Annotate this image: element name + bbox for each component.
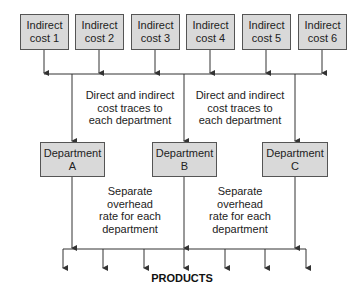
department-a-box: Department A: [40, 142, 105, 177]
indirect-cost-2-box: Indirect cost 2: [75, 14, 124, 50]
indirect-cost-3-box: Indirect cost 3: [131, 14, 180, 50]
note-line: department: [88, 223, 172, 236]
box-label-line1: Indirect: [192, 19, 228, 32]
box-label-line2: cost 6: [308, 32, 337, 45]
box-label-line1: Indirect: [26, 19, 62, 32]
note-line: Separate: [198, 185, 282, 198]
indirect-cost-4-box: Indirect cost 4: [186, 14, 235, 50]
note-line: cost traces to: [188, 102, 292, 115]
note-line: overhead: [198, 198, 282, 211]
note-line: rate for each: [198, 210, 282, 223]
box-label-line1: Indirect: [248, 19, 284, 32]
department-c-box: Department C: [262, 142, 328, 177]
note-line: cost traces to: [78, 102, 182, 115]
note-line: department: [198, 223, 282, 236]
rate-note-left: Separate overhead rate for each departme…: [88, 185, 172, 235]
box-label-line2: cost 2: [85, 32, 114, 45]
indirect-cost-6-box: Indirect cost 6: [298, 14, 347, 50]
note-line: each department: [188, 114, 292, 127]
box-label-line1: Indirect: [81, 19, 117, 32]
products-label: PRODUCTS: [0, 272, 364, 284]
dept-label-line2: A: [69, 160, 76, 173]
dept-label-line2: C: [291, 160, 299, 173]
box-label-line1: Indirect: [137, 19, 173, 32]
box-label-line2: cost 1: [30, 32, 59, 45]
box-label-line2: cost 3: [141, 32, 170, 45]
note-line: rate for each: [88, 210, 172, 223]
box-label-line1: Indirect: [304, 19, 340, 32]
box-label-line2: cost 4: [196, 32, 225, 45]
indirect-cost-1-box: Indirect cost 1: [20, 14, 69, 50]
department-b-box: Department B: [152, 142, 217, 177]
box-label-line2: cost 5: [252, 32, 281, 45]
trace-note-right: Direct and indirect cost traces to each …: [188, 89, 292, 127]
note-line: Direct and indirect: [188, 89, 292, 102]
indirect-cost-5-box: Indirect cost 5: [242, 14, 291, 50]
note-line: Separate: [88, 185, 172, 198]
dept-label-line2: B: [181, 160, 188, 173]
trace-note-left: Direct and indirect cost traces to each …: [78, 89, 182, 127]
note-line: each department: [78, 114, 182, 127]
dept-label-line1: Department: [44, 147, 101, 160]
rate-note-right: Separate overhead rate for each departme…: [198, 185, 282, 235]
note-line: Direct and indirect: [78, 89, 182, 102]
note-line: overhead: [88, 198, 172, 211]
dept-label-line1: Department: [266, 147, 323, 160]
dept-label-line1: Department: [156, 147, 213, 160]
